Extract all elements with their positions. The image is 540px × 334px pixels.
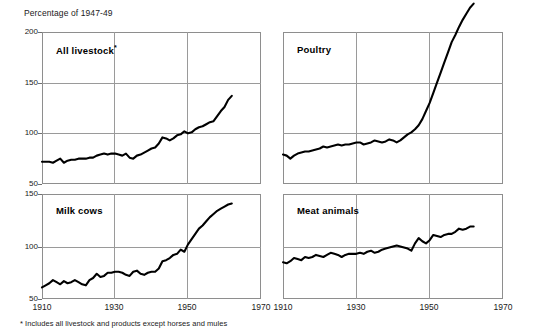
ylabel-top-200: 200 bbox=[8, 27, 38, 36]
xlabel-left-1910: 1910 bbox=[22, 302, 62, 312]
y-axis-title: Percentage of 1947-49 bbox=[24, 8, 113, 18]
ytick-bottom-150 bbox=[38, 194, 42, 195]
ytick-bottom-50 bbox=[38, 299, 42, 300]
ylabel-bottom-100: 100 bbox=[8, 242, 38, 251]
xlabel-right-1930: 1930 bbox=[336, 302, 376, 312]
panel-milk-cows: Milk cows bbox=[42, 194, 261, 299]
series-all-livestock bbox=[42, 32, 261, 184]
series-meat-animals bbox=[283, 194, 503, 299]
panel-meat-animals: Meat animals bbox=[283, 194, 503, 299]
panel-poultry: Poultry bbox=[283, 32, 503, 184]
ylabel-top-50: 50 bbox=[8, 179, 38, 188]
xlabel-left-1930: 1930 bbox=[94, 302, 134, 312]
chart-canvas: Percentage of 1947-49 All livestock* 200… bbox=[0, 0, 540, 334]
series-milk-cows bbox=[42, 194, 261, 299]
ylabel-bottom-150: 150 bbox=[8, 189, 38, 198]
xlabel-right-1950: 1950 bbox=[409, 302, 449, 312]
ytick-top-200 bbox=[38, 32, 42, 33]
ytick-bottom-100 bbox=[38, 247, 42, 248]
ylabel-top-150: 150 bbox=[8, 78, 38, 87]
ytick-top-100 bbox=[38, 133, 42, 134]
xlabel-right-1970: 1970 bbox=[483, 302, 523, 312]
ytick-top-50 bbox=[38, 184, 42, 185]
chart-footnote: * Includes all livestock and products ex… bbox=[20, 319, 227, 328]
xlabel-left-1950: 1950 bbox=[167, 302, 207, 312]
panel-all-livestock: All livestock* bbox=[42, 32, 261, 184]
series-poultry bbox=[283, 32, 503, 184]
xlabel-right-1910: 1910 bbox=[263, 302, 303, 312]
ylabel-top-100: 100 bbox=[8, 128, 38, 137]
ytick-top-150 bbox=[38, 83, 42, 84]
